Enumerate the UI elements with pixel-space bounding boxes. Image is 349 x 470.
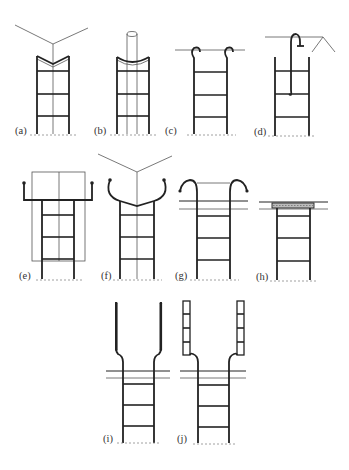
label-g: (g) bbox=[175, 270, 188, 282]
label-h: (h) bbox=[256, 271, 269, 283]
label-i: (i) bbox=[103, 433, 113, 445]
label-d: (d) bbox=[254, 126, 267, 138]
panel-f: (f) bbox=[98, 154, 172, 282]
panel-d: (d) bbox=[254, 34, 335, 138]
label-j: (j) bbox=[177, 433, 187, 445]
ladder-diagram: (a) (b) (c) (d) bbox=[0, 0, 349, 470]
label-a: (a) bbox=[15, 125, 27, 137]
panel-h: (h) bbox=[256, 202, 328, 283]
panel-e: (e) bbox=[19, 172, 94, 282]
panel-b: (b) bbox=[94, 32, 158, 138]
panel-j: (j) bbox=[177, 301, 246, 445]
label-f: (f) bbox=[101, 270, 112, 282]
panel-a: (a) bbox=[15, 25, 88, 137]
panel-i: (i) bbox=[103, 302, 170, 445]
label-b: (b) bbox=[94, 125, 107, 137]
label-e: (e) bbox=[19, 270, 31, 282]
panel-c: (c) bbox=[165, 48, 245, 138]
label-c: (c) bbox=[165, 125, 177, 137]
panel-g: (g) bbox=[175, 180, 249, 282]
